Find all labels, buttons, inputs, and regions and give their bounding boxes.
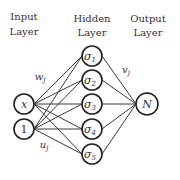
- output-node: N: [136, 93, 158, 115]
- hidden-layer-heading: Hidden Layer: [73, 13, 111, 38]
- hidden-node-1-index: 1: [92, 56, 96, 64]
- hidden-node-3-index: 3: [92, 104, 97, 112]
- weight-label-v: vj: [122, 64, 131, 77]
- neural-network-diagram: Input Layer Hidden Layer Output Layer x: [0, 0, 180, 180]
- hidden-node-3: σ3: [82, 94, 102, 114]
- input-layer-label-line1: Input: [10, 11, 37, 22]
- weight-label-w: wj: [35, 71, 47, 84]
- input-node-bias-label: 1: [21, 123, 28, 136]
- hidden-node-4-index: 4: [91, 129, 96, 137]
- hidden-output-edges: [102, 56, 136, 154]
- hidden-layer-label-line1: Hidden: [73, 13, 111, 24]
- hidden-node-1: σ1: [82, 46, 102, 66]
- output-layer-label-line1: Output: [130, 13, 166, 24]
- hidden-node-2: σ2: [82, 70, 102, 90]
- input-layer-heading: Input Layer: [10, 11, 39, 37]
- weight-label-u: uj: [40, 139, 49, 152]
- hidden-node-2-index: 2: [91, 80, 97, 88]
- input-layer-label-line2: Layer: [10, 26, 39, 37]
- output-node-label: N: [141, 98, 152, 111]
- input-node-x-label: x: [21, 98, 28, 111]
- input-node-bias: 1: [14, 119, 34, 139]
- hidden-node-5: σ5: [82, 144, 102, 164]
- hidden-layer-label-line2: Layer: [78, 27, 107, 38]
- hidden-node-4: σ4: [82, 119, 102, 139]
- output-layer-heading: Output Layer: [130, 13, 166, 38]
- input-node-x: x: [14, 94, 34, 114]
- output-layer-label-line2: Layer: [134, 27, 163, 38]
- hidden-node-5-index: 5: [92, 154, 97, 162]
